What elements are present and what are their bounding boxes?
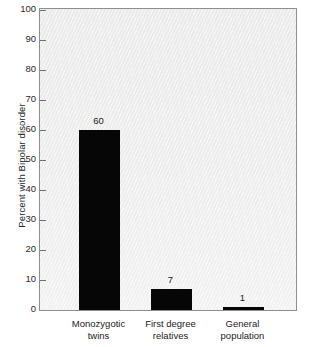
x-category-label-line: General <box>201 318 285 330</box>
y-tick-label: 0 <box>6 304 36 314</box>
y-tick-mark <box>40 250 46 251</box>
bar <box>79 130 120 310</box>
plot-area <box>39 8 297 311</box>
y-tick-label: 50 <box>6 154 36 164</box>
y-tick-mark <box>40 130 46 131</box>
y-tick-mark <box>40 70 46 71</box>
y-tick-mark <box>40 10 46 11</box>
y-tick-label: 20 <box>6 244 36 254</box>
y-tick-label: 90 <box>6 34 36 44</box>
bar <box>151 289 192 310</box>
y-tick-label: 40 <box>6 184 36 194</box>
y-tick-label: 30 <box>6 214 36 224</box>
x-category-label: Generalpopulation <box>201 318 285 341</box>
y-tick-mark <box>40 160 46 161</box>
y-tick-mark <box>40 40 46 41</box>
y-tick-label: 10 <box>6 274 36 284</box>
bar-value-label: 60 <box>74 116 124 126</box>
bar <box>223 307 264 310</box>
y-tick-label: 100 <box>6 4 36 14</box>
y-tick-mark <box>40 280 46 281</box>
y-tick-label: 70 <box>6 94 36 104</box>
y-tick-mark <box>40 190 46 191</box>
y-tick-label: 60 <box>6 124 36 134</box>
y-tick-label: 80 <box>6 64 36 74</box>
bar-value-label: 7 <box>146 275 196 285</box>
y-axis-ticks: 0102030405060708090100 <box>0 0 36 347</box>
bar-chart-figure: Percent with Bipolar disorder 0102030405… <box>0 0 311 347</box>
x-category-label-line: population <box>201 330 285 342</box>
y-tick-mark <box>40 220 46 221</box>
bar-value-label: 1 <box>218 293 268 303</box>
y-tick-mark <box>40 100 46 101</box>
